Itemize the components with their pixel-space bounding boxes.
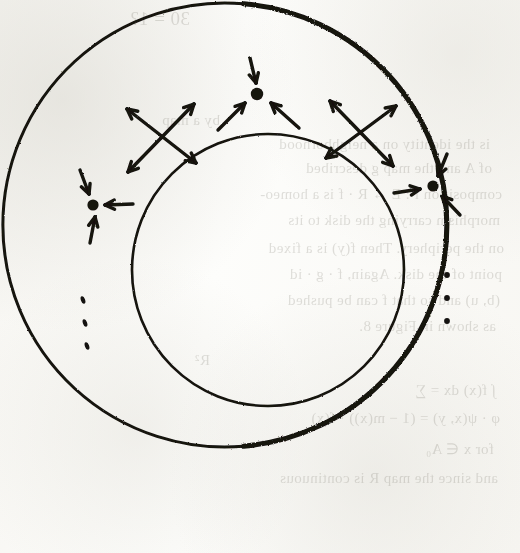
- saddle-upper-right-unstable-arrow-a-barb-1: [326, 156, 337, 158]
- sink-right: [394, 154, 460, 215]
- ellipsis-right-dot-0: [444, 272, 450, 278]
- sink-right-dot: [427, 180, 438, 191]
- outer-boundary-circle-left-arc-heavy: [244, 4, 447, 446]
- saddle-upper-left-unstable-arrow-a-shaft: [127, 109, 162, 136]
- saddle-upper-right-unstable-arrow-b-barb-1: [385, 106, 396, 108]
- inner-boundary-circle: [132, 134, 404, 406]
- sink-top: [218, 58, 299, 130]
- annulus-boundaries: [3, 3, 447, 447]
- saddle-upper-left-stable-arrow-a-shaft: [128, 138, 161, 172]
- ellipsis-marks-group: [80, 272, 450, 350]
- sink-left-dot: [87, 199, 98, 210]
- ellipsis-right-dot-2: [444, 318, 450, 324]
- saddle-upper-right-unstable-arrow-a-shaft: [326, 132, 361, 158]
- ellipsis-left: [80, 296, 91, 351]
- ellipsis-left-dot-2: [84, 342, 91, 351]
- fixed-points-group: [80, 58, 460, 243]
- sink-top-arrow-2-shaft: [271, 103, 299, 128]
- ellipsis-right-dot-1: [444, 295, 450, 301]
- saddle-points-group: [127, 101, 396, 172]
- sink-right-arrow-1-barb-1: [410, 186, 420, 189]
- saddle-upper-left-unstable-arrow-b-shaft: [162, 136, 197, 163]
- saddle-upper-right-unstable-arrow-b-shaft: [361, 106, 396, 132]
- ellipsis-left-dot-0: [80, 296, 87, 305]
- scanned-page: 30 = 1?by a mapis the identity on a neig…: [0, 0, 520, 553]
- saddle-upper-right-stable-arrow-a-shaft: [330, 101, 362, 134]
- sink-left: [80, 170, 133, 243]
- annulus-figure: [0, 0, 520, 553]
- sink-left-arrow-0-barb-1: [89, 184, 90, 194]
- ellipsis-right: [444, 272, 450, 324]
- ellipsis-left-dot-1: [82, 319, 89, 328]
- saddle-upper-left: [127, 104, 196, 172]
- saddle-upper-right: [326, 101, 396, 166]
- sink-top-dot: [251, 88, 263, 100]
- sink-top-arrow-1-shaft: [218, 103, 245, 130]
- saddle-upper-right-stable-arrow-b-shaft: [362, 134, 394, 167]
- saddle-upper-left-stable-arrow-b-shaft: [161, 104, 194, 138]
- sink-top-arrow-0-barb-1: [256, 73, 258, 83]
- outer-boundary-circle-right-arc: [3, 3, 244, 447]
